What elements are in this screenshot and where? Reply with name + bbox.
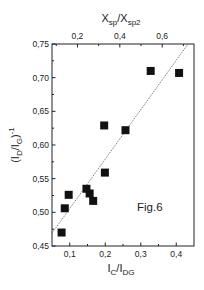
fit-line xyxy=(52,44,188,233)
scatter-chart: 0,10,20,30,40,20,40,60,450,500,550,600,6… xyxy=(0,0,204,290)
x-tick-label: 0,3 xyxy=(135,249,147,259)
y-tick-label: 0,50 xyxy=(32,207,49,217)
y-tick-label: 0,55 xyxy=(32,174,49,184)
x2-tick-label: 0,4 xyxy=(114,31,126,41)
data-point xyxy=(100,121,108,129)
data-point xyxy=(65,191,73,199)
x-tick-label: 0,1 xyxy=(64,249,76,259)
x-tick-label: 0,2 xyxy=(99,249,111,259)
axis-ticks xyxy=(52,44,183,246)
data-point xyxy=(89,197,97,205)
data-point xyxy=(61,204,69,212)
x2-tick-label: 0,2 xyxy=(72,31,84,41)
data-point xyxy=(175,69,183,77)
y-axis-title: (ID/IG)-1 xyxy=(7,127,24,163)
data-point xyxy=(86,189,94,197)
y-tick-label: 0,70 xyxy=(32,73,49,83)
plot-frame xyxy=(52,44,194,246)
data-point xyxy=(147,67,155,75)
trend-line xyxy=(52,44,188,233)
x-axis-title: IC/IDG xyxy=(108,262,135,277)
figure-annotation: Fig.6 xyxy=(137,201,163,213)
y-tick-label: 0,45 xyxy=(32,241,49,251)
x2-tick-label: 0,6 xyxy=(156,31,168,41)
data-points xyxy=(58,67,184,237)
y-tick-label: 0,65 xyxy=(32,106,49,116)
x-tick-label: 0,4 xyxy=(170,249,182,259)
data-point xyxy=(121,126,129,134)
data-point xyxy=(58,229,66,237)
top-axis-title: Xsp/Xsp2 xyxy=(101,12,141,27)
data-point xyxy=(101,169,109,177)
y-tick-label: 0,60 xyxy=(32,140,49,150)
y-tick-label: 0,75 xyxy=(32,39,49,49)
